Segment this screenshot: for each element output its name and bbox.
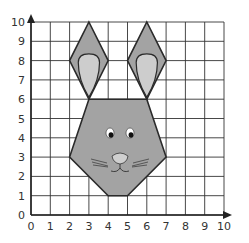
y-tick-label: 4 (18, 132, 25, 145)
y-tick-label: 2 (18, 170, 25, 183)
x-tick-label: 3 (85, 220, 92, 233)
x-tick-label: 6 (143, 220, 150, 233)
x-tick-label: 8 (182, 220, 189, 233)
coordinate-grid-diagram: 012345678910012345678910 (0, 0, 249, 243)
left-eye (106, 128, 114, 138)
rabbit-head (70, 99, 167, 196)
y-tick-label: 10 (11, 16, 25, 29)
left-inner-ear (78, 54, 99, 97)
right-eye (126, 128, 134, 138)
x-tick-label: 2 (66, 220, 73, 233)
y-tick-label: 9 (18, 35, 25, 48)
x-tick-label: 10 (217, 220, 231, 233)
x-tick-label: 7 (163, 220, 170, 233)
x-tick-label: 0 (28, 220, 35, 233)
y-tick-label: 3 (18, 151, 25, 164)
y-tick-label: 7 (18, 74, 25, 87)
x-axis-arrow-icon (223, 211, 232, 219)
x-tick-label: 9 (201, 220, 208, 233)
y-tick-label: 1 (18, 190, 25, 203)
y-tick-label: 0 (18, 209, 25, 222)
y-tick-label: 8 (18, 55, 25, 68)
y-tick-label: 6 (18, 93, 25, 106)
x-tick-label: 4 (105, 220, 112, 233)
x-tick-label: 1 (47, 220, 54, 233)
y-axis-arrow-icon (27, 14, 35, 23)
y-tick-label: 5 (18, 113, 25, 126)
x-tick-label: 5 (124, 220, 131, 233)
right-inner-ear (136, 54, 157, 97)
